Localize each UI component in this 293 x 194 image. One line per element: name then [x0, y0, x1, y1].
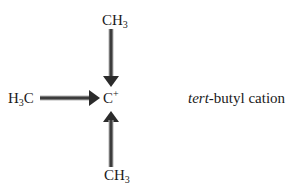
top-arrow-head [103, 76, 119, 87]
top-methyl-main: CH [102, 12, 123, 28]
bottom-arrow [103, 111, 119, 167]
bottom-methyl-subscript: 3 [125, 174, 130, 185]
central-carbon: C [103, 90, 113, 106]
left-arrow [40, 90, 100, 106]
bottom-methyl-label: CH3 [104, 168, 130, 183]
central-carbocation-label: C+ [103, 91, 119, 106]
top-arrow [103, 29, 119, 87]
left-arrow-shaft [40, 96, 91, 101]
left-arrow-head [89, 90, 100, 106]
left-methyl-label: H3C [8, 91, 34, 106]
compound-name-caption: tert-butyl cation [188, 91, 285, 106]
positive-charge: + [113, 88, 119, 99]
top-methyl-subscript: 3 [123, 19, 128, 30]
top-arrow-shaft [109, 29, 114, 78]
bottom-arrow-shaft [109, 120, 114, 167]
bottom-methyl-main: CH [104, 167, 125, 183]
left-methyl-suffix: C [24, 90, 34, 106]
top-methyl-label: CH3 [102, 13, 128, 28]
left-methyl-prefix: H [8, 90, 19, 106]
caption-rest: -butyl cation [209, 90, 285, 106]
caption-italic-prefix: tert [188, 90, 209, 106]
